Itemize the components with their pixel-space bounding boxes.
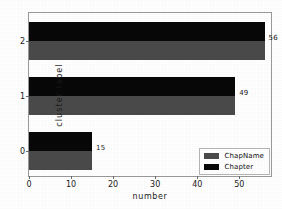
x-tick-label: 10 (66, 180, 76, 189)
legend-label: ChapName (224, 152, 264, 160)
bar-value-label: 49 (239, 89, 248, 97)
y-tick-label: 0 (20, 146, 25, 155)
y-tick-mark (26, 41, 29, 42)
y-axis-label: cluster label (55, 63, 64, 126)
bar-chapter-cluster-0 (29, 132, 92, 151)
y-tick-label: 1 (20, 91, 25, 100)
bar-chart-figure: cluster label 154956 012 01020304050 Cha… (0, 0, 282, 209)
plot-area: cluster label 154956 012 01020304050 Cha… (28, 12, 272, 177)
bar-chapname-cluster-0 (29, 151, 92, 170)
legend-label: Chapter (224, 163, 253, 171)
bar-value-label: 56 (269, 34, 278, 42)
x-axis-label: number (28, 192, 272, 201)
x-tick-label: 40 (192, 180, 202, 189)
legend: ChapNameChapter (199, 148, 270, 175)
x-tick-mark (239, 176, 240, 179)
legend-swatch-icon (204, 164, 219, 170)
x-tick-mark (71, 176, 72, 179)
y-tick-mark (26, 96, 29, 97)
legend-swatch-icon (204, 153, 219, 159)
bar-chapname-cluster-2 (29, 41, 265, 60)
legend-item: Chapter (204, 163, 264, 171)
x-tick-label: 50 (234, 180, 244, 189)
y-tick-label: 2 (20, 36, 25, 45)
x-tick-mark (197, 176, 198, 179)
bar-chapter-cluster-2 (29, 22, 265, 41)
x-tick-label: 20 (108, 180, 118, 189)
x-tick-mark (29, 176, 30, 179)
legend-item: ChapName (204, 152, 264, 160)
x-tick-mark (113, 176, 114, 179)
y-tick-mark (26, 151, 29, 152)
x-tick-label: 30 (150, 180, 160, 189)
x-tick-label: 0 (26, 180, 31, 189)
x-tick-mark (155, 176, 156, 179)
bar-value-label: 15 (96, 144, 105, 152)
